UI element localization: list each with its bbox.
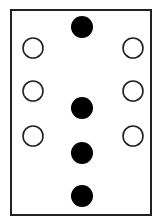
diagram-svg [0, 0, 156, 222]
hollow-circle-right-2 [123, 81, 143, 101]
filled-circle-center-3 [71, 142, 93, 164]
hollow-circle-left-1 [23, 38, 43, 58]
dot-diagram [0, 0, 156, 222]
hollow-circle-left-2 [23, 81, 43, 101]
filled-circles-group [71, 16, 93, 207]
hollow-circles-group [23, 38, 143, 146]
filled-circle-center-1 [71, 16, 93, 38]
hollow-circle-right-1 [123, 38, 143, 58]
filled-circle-center-4 [71, 185, 93, 207]
hollow-circle-left-3 [23, 126, 43, 146]
hollow-circle-right-3 [123, 126, 143, 146]
filled-circle-center-2 [71, 97, 93, 119]
